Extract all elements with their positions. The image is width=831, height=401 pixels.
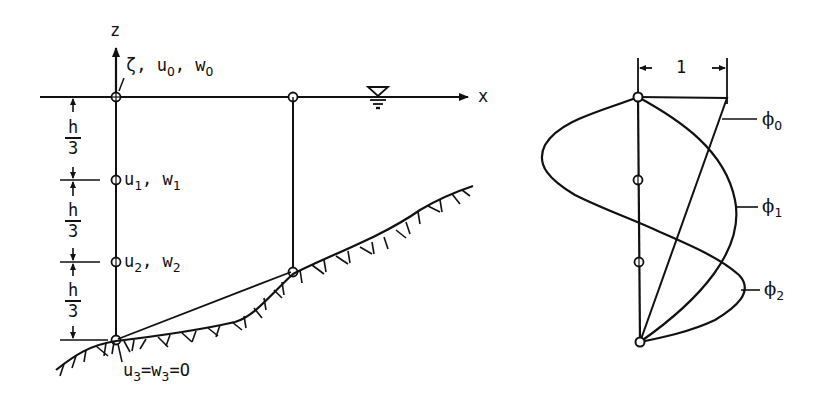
mode-node-surface: [634, 93, 643, 102]
phi2-label: ϕ2: [764, 280, 784, 302]
phi0-label: ϕO: [762, 110, 782, 132]
right-panel: [542, 58, 760, 347]
mode-phi0-curve: [638, 97, 727, 342]
surface-node-label: ζ, uO, wO: [126, 57, 213, 78]
layer-thickness-3: h 3: [65, 282, 81, 320]
mode-vertical-axis: [638, 97, 640, 342]
x-axis-label: x: [478, 88, 488, 105]
layer1-node-label: u1, w1: [124, 171, 181, 192]
phi1-label: ϕ1: [762, 197, 782, 219]
vertical-layer-mode-diagram: z x ζ, uO, wO u1, w1 u2, w2 u3=w3=O h 3 …: [0, 0, 831, 401]
bottom-boundary-condition: u3=w3=O: [123, 362, 190, 383]
z-axis-label: z: [110, 22, 120, 39]
diagram-lines: [0, 0, 831, 401]
left-panel: [40, 48, 473, 376]
layer2-node-label: u2, w2: [124, 253, 181, 274]
mode-node-bottom: [636, 338, 645, 347]
layer-thickness-2: h 3: [65, 202, 81, 240]
unit-scale-label: 1: [676, 59, 686, 76]
layer-thickness-1: h 3: [65, 119, 81, 157]
